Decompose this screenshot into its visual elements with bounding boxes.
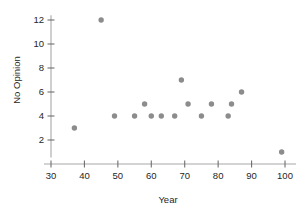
data-point <box>279 149 284 154</box>
y-tick-label-2: 2 <box>39 134 44 145</box>
x-tick-label-90: 90 <box>246 170 257 181</box>
y-axis-title: No Opinion <box>11 56 22 104</box>
data-point <box>159 113 164 118</box>
y-tick-label-6: 6 <box>39 86 44 97</box>
data-point <box>199 113 204 118</box>
data-point <box>132 113 137 118</box>
x-tick-label-50: 50 <box>113 170 124 181</box>
data-point <box>179 77 184 82</box>
data-point <box>239 89 244 94</box>
y-tick-label-10: 10 <box>33 38 44 49</box>
x-tick-label-100: 100 <box>277 170 293 181</box>
data-point <box>225 113 230 118</box>
data-point <box>172 113 177 118</box>
data-point <box>72 125 77 130</box>
x-tick-label-60: 60 <box>146 170 157 181</box>
data-point <box>209 101 214 106</box>
plot-canvas: 2468101230405060708090100YearNo Opinion <box>0 0 301 211</box>
data-point <box>149 113 154 118</box>
x-tick-label-70: 70 <box>179 170 190 181</box>
data-point <box>185 101 190 106</box>
x-tick-label-80: 80 <box>213 170 224 181</box>
x-tick-label-30: 30 <box>46 170 57 181</box>
scatter-plot-figure: 2468101230405060708090100YearNo Opinion <box>0 0 301 211</box>
x-tick-label-40: 40 <box>79 170 90 181</box>
data-point <box>142 101 147 106</box>
y-tick-label-4: 4 <box>39 110 44 121</box>
y-tick-label-12: 12 <box>33 14 44 25</box>
data-point <box>98 17 103 22</box>
data-point <box>229 101 234 106</box>
y-tick-label-8: 8 <box>39 62 44 73</box>
x-axis-title: Year <box>158 194 177 205</box>
data-point <box>112 113 117 118</box>
